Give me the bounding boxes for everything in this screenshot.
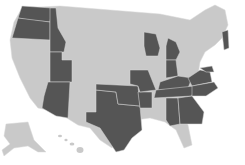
- state-al: [166, 98, 180, 126]
- state-az: [42, 82, 70, 118]
- state-ak: [2, 122, 46, 156]
- state-ar: [138, 92, 152, 108]
- state-hi: [58, 135, 84, 153]
- state-vt: [222, 30, 229, 50]
- state-in: [166, 60, 178, 78]
- us-map: [0, 0, 245, 165]
- state-ga: [178, 96, 204, 124]
- state-or: [12, 18, 50, 40]
